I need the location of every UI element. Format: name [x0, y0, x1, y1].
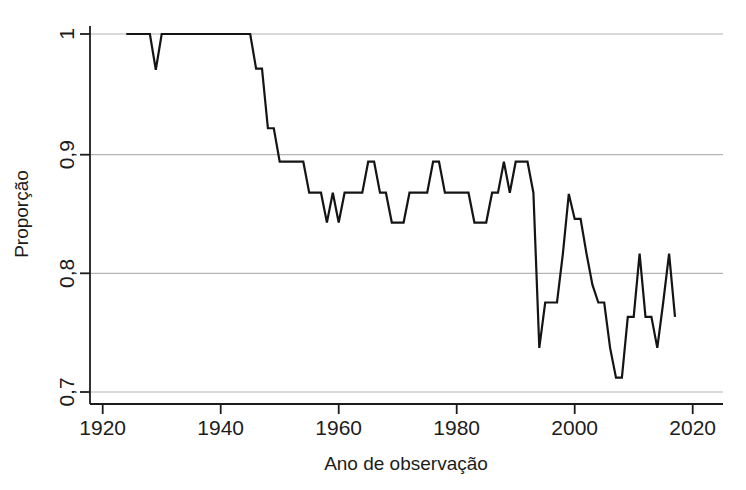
y-tick-label-1: 1: [55, 28, 78, 40]
axes-lines: [90, 26, 723, 404]
x-tick-label-2020: 2020: [669, 416, 716, 439]
y-tick-labels: 1 0,9 0,8 0,7: [55, 28, 78, 406]
y-tickmarks: [80, 34, 90, 392]
y-tick-label-0-9: 0,9: [55, 140, 78, 169]
x-tick-labels: 1920 1940 1960 1980 2000 2020: [79, 416, 716, 439]
x-tick-label-2000: 2000: [551, 416, 598, 439]
y-tick-label-0-7: 0,7: [55, 377, 78, 406]
x-tickmarks: [103, 404, 693, 414]
x-tick-label-1980: 1980: [433, 416, 480, 439]
y-tick-label-0-8: 0,8: [55, 259, 78, 288]
x-axis-title: Ano de observação: [324, 453, 488, 474]
line-chart: 1 0,9 0,8 0,7 1920 1940 1960 1980 2000 2…: [0, 0, 746, 490]
x-tick-label-1920: 1920: [79, 416, 126, 439]
x-tick-label-1940: 1940: [197, 416, 244, 439]
chart-container: 1 0,9 0,8 0,7 1920 1940 1960 1980 2000 2…: [0, 0, 746, 490]
x-tick-label-1960: 1960: [315, 416, 362, 439]
y-axis-title: Proporção: [11, 170, 32, 258]
data-series-line: [126, 34, 675, 378]
